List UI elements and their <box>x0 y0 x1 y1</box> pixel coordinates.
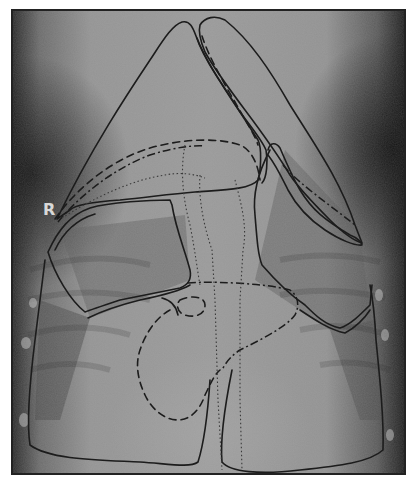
side-marker-r: R <box>43 200 55 219</box>
radiograph-figure: R <box>0 0 411 486</box>
radiograph-svg: R <box>0 0 411 486</box>
